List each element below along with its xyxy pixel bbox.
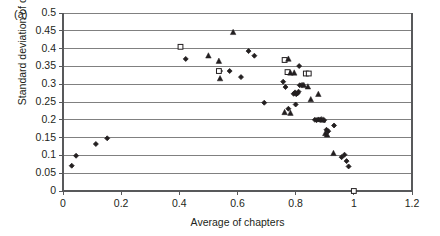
data-point-diamond — [332, 123, 337, 128]
x-tick-label: 0 — [43, 197, 83, 209]
data-point-diamond — [281, 79, 286, 84]
data-point-triangle — [217, 76, 223, 81]
y-tick-label: 0.45 — [16, 24, 56, 36]
y-tick-label: 0.4 — [16, 42, 56, 54]
data-point-diamond — [283, 85, 288, 90]
y-tick-label: 0.1 — [16, 148, 56, 160]
y-tick-label: 0.2 — [16, 113, 56, 125]
data-point-diamond — [69, 163, 74, 168]
data-point-square — [178, 44, 183, 49]
data-point-triangle — [216, 58, 222, 63]
data-point-diamond — [346, 164, 351, 169]
data-point-square — [306, 71, 311, 76]
x-tick-label: 0.8 — [276, 197, 316, 209]
data-point-triangle — [291, 70, 297, 75]
x-tick-label: 1.2 — [392, 197, 432, 209]
data-point-diamond — [105, 136, 110, 141]
data-point-square — [216, 69, 221, 74]
data-point-diamond — [297, 64, 302, 69]
gridlines — [63, 13, 412, 191]
y-tick-label: 0.15 — [16, 131, 56, 143]
data-point-triangle — [282, 109, 288, 114]
data-point-markers — [69, 29, 356, 193]
data-point-triangle — [308, 97, 314, 102]
x-tick-label: 0.6 — [218, 197, 258, 209]
axis-ticks — [59, 13, 412, 195]
data-point-diamond — [227, 69, 232, 74]
data-point-square — [351, 189, 356, 194]
data-point-triangle — [331, 150, 337, 155]
data-point-diamond — [252, 53, 257, 58]
y-tick-label: 0.05 — [16, 166, 56, 178]
y-tick-label: 0.3 — [16, 77, 56, 89]
x-axis-title: Average of chapters — [63, 216, 412, 228]
chart-figure: (a) Standard deviation of chapters Avera… — [0, 0, 440, 236]
data-point-diamond — [183, 56, 188, 61]
y-tick-label: 0.5 — [16, 6, 56, 18]
x-tick-label: 0.4 — [159, 197, 199, 209]
data-point-diamond — [293, 102, 298, 107]
data-point-diamond — [246, 49, 251, 54]
data-point-diamond — [344, 159, 349, 164]
data-point-triangle — [230, 29, 236, 34]
data-point-triangle — [316, 91, 322, 96]
data-point-diamond — [262, 100, 267, 105]
data-point-diamond — [74, 153, 79, 158]
x-tick-label: 0.2 — [101, 197, 141, 209]
data-point-diamond — [93, 142, 98, 147]
y-tick-label: 0.25 — [16, 95, 56, 107]
y-tick-label: 0.35 — [16, 59, 56, 71]
data-point-diamond — [238, 75, 243, 80]
x-tick-label: 1 — [334, 197, 374, 209]
y-tick-label: 0 — [16, 184, 56, 196]
data-point-triangle — [206, 53, 212, 58]
